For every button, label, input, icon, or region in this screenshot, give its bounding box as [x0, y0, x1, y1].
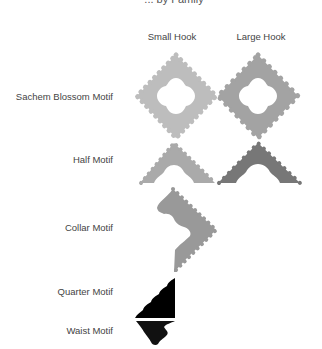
- half-motif-large-hook: [218, 143, 300, 183]
- motif-diagram: [0, 0, 322, 349]
- half-motif-small-hook: [140, 143, 215, 183]
- sachem-blossom-small-hook: [137, 55, 216, 138]
- waist-motif: [136, 321, 175, 345]
- quarter-motif: [135, 278, 175, 318]
- collar-motif: [157, 189, 216, 272]
- sachem-blossom-large-hook: [218, 55, 298, 138]
